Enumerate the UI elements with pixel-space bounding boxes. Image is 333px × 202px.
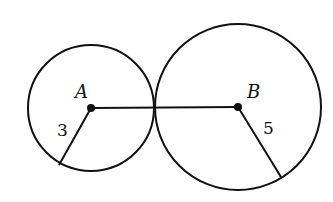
radius-b <box>238 107 281 177</box>
radius-label-a: 3 <box>57 120 68 140</box>
label-a: A <box>73 81 88 102</box>
radius-label-b: 5 <box>263 118 274 138</box>
center-point-a <box>87 104 95 112</box>
tangent-circles-diagram: A B 3 5 <box>0 0 333 202</box>
center-segment-ab <box>91 107 238 108</box>
label-b: B <box>246 81 260 102</box>
center-point-b <box>234 103 242 111</box>
